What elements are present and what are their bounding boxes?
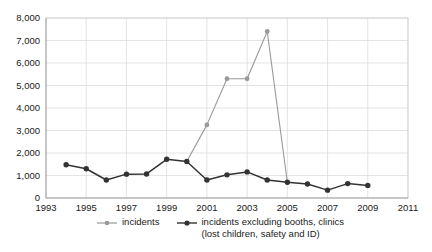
- data-point: [325, 187, 330, 192]
- line-chart: 01,0002,0003,0004,0005,0006,0007,0008,00…: [0, 0, 432, 252]
- x-tick-label: 2001: [196, 202, 217, 213]
- x-tick-label: 2011: [398, 202, 418, 213]
- chart-canvas: 01,0002,0003,0004,0005,0006,0007,0008,00…: [0, 0, 432, 252]
- y-tick-label: 4,000: [16, 102, 40, 113]
- x-tick-label: 2009: [357, 202, 378, 213]
- data-point: [204, 177, 209, 182]
- legend-label-incidents: incidents: [122, 216, 160, 228]
- data-point: [224, 172, 229, 177]
- y-tick-label: 7,000: [16, 35, 40, 46]
- data-point: [184, 159, 189, 164]
- x-tick-label: 2007: [317, 202, 338, 213]
- series-lines: [63, 29, 370, 193]
- data-point: [144, 171, 149, 176]
- legend-symbol-incidents-excluding: [176, 217, 198, 229]
- y-tick-label: 1,000: [16, 170, 40, 181]
- data-point: [244, 169, 249, 174]
- data-point: [225, 76, 230, 81]
- data-point: [104, 177, 109, 182]
- legend-label-incidents-excluding: incidents excluding booths, clinics: [202, 216, 345, 228]
- data-point: [63, 162, 68, 167]
- data-point: [245, 76, 250, 81]
- y-tick-label: 5,000: [16, 80, 40, 91]
- x-tick-label: 2003: [237, 202, 258, 213]
- y-tick-label: 8,000: [16, 12, 40, 23]
- data-point: [345, 181, 350, 186]
- x-tick-label: 1993: [35, 202, 56, 213]
- legend-symbol-incidents: [96, 217, 118, 229]
- data-point: [204, 122, 209, 127]
- data-point: [365, 183, 370, 188]
- x-tick-label: 1997: [116, 202, 137, 213]
- y-tick-label: 2,000: [16, 147, 40, 158]
- chart-legend: incidents incidents excluding booths, cl…: [0, 216, 432, 239]
- data-point: [265, 29, 270, 34]
- x-tick-label: 1999: [156, 202, 177, 213]
- x-tick-label: 1995: [76, 202, 97, 213]
- data-point: [305, 181, 310, 186]
- series-incidents-excluding: [63, 157, 370, 193]
- x-tick-labels: 1993199519971999200120032005200720092011: [35, 202, 418, 213]
- data-point: [265, 177, 270, 182]
- legend-item-incidents-excluding[interactable]: incidents excluding booths, clinics (los…: [176, 216, 345, 239]
- data-point: [164, 157, 169, 162]
- gridlines-group: [46, 18, 408, 198]
- series-incidents: [184, 29, 289, 185]
- data-point: [285, 180, 290, 185]
- legend-label-incidents-excluding-line2: (lost children, safety and ID): [202, 228, 345, 240]
- data-point: [124, 171, 129, 176]
- data-point: [84, 166, 89, 171]
- y-tick-label: 6,000: [16, 57, 40, 68]
- y-tick-label: 3,000: [16, 125, 40, 136]
- legend-item-incidents[interactable]: incidents: [96, 216, 160, 229]
- y-tick-labels: 01,0002,0003,0004,0005,0006,0007,0008,00…: [16, 12, 40, 203]
- x-tick-label: 2005: [277, 202, 298, 213]
